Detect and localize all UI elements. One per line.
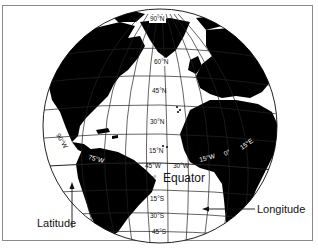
- globe-diagram: 90°N 60°N 45°N 30°N 15°N 0° 15°S 30°S 45…: [0, 0, 318, 249]
- lat-label-30n: 30°N: [150, 118, 165, 125]
- latitude-label: Latitude: [37, 217, 76, 229]
- globe: [43, 9, 280, 243]
- lat-label-30s: 30°S: [150, 212, 165, 219]
- lon-label-45w: 45°W: [145, 162, 162, 169]
- lon-label-30w: 30°W: [173, 162, 190, 169]
- europe: [196, 28, 276, 98]
- lat-label-45s: 45°S: [152, 228, 167, 235]
- lat-label-0: 0°: [150, 175, 157, 182]
- longitude-label: Longitude: [257, 203, 305, 215]
- lat-label-45n: 45°N: [152, 87, 167, 94]
- lat-label-15n: 15°N: [149, 147, 164, 154]
- lat-label-15s: 15°S: [150, 195, 165, 202]
- equator-label: Equator: [163, 171, 205, 185]
- lat-label-60n: 60°N: [154, 58, 169, 65]
- lat-label-90n: 90°N: [150, 15, 165, 22]
